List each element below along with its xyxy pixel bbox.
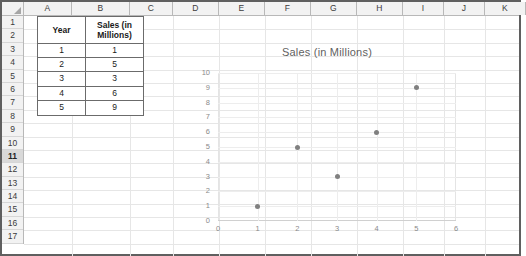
column-header-k[interactable]: K bbox=[485, 2, 526, 15]
table-row[interactable]: 33 bbox=[38, 72, 144, 86]
cell-sales[interactable]: 3 bbox=[86, 72, 144, 86]
row-header-3[interactable]: 3 bbox=[2, 43, 23, 56]
x-grid-line bbox=[258, 73, 259, 221]
column-header-f[interactable]: F bbox=[265, 2, 311, 15]
data-point[interactable] bbox=[374, 130, 379, 135]
data-point[interactable] bbox=[295, 145, 300, 150]
y-axis-tick-label: 4 bbox=[188, 158, 210, 166]
data-table[interactable]: Year Sales (in Millions) 1125334659 bbox=[37, 16, 144, 116]
x-axis-tick-label: 0 bbox=[206, 225, 230, 233]
row-header-14[interactable]: 14 bbox=[2, 190, 23, 203]
y-axis-tick-label: 2 bbox=[188, 187, 210, 195]
row-header-12[interactable]: 12 bbox=[2, 163, 23, 176]
x-axis-tick-label: 4 bbox=[365, 225, 389, 233]
row-header-column: 1234567891011121314151617 bbox=[2, 16, 24, 244]
y-axis-tick-label: 0 bbox=[188, 217, 210, 225]
x-grid-line bbox=[377, 73, 378, 221]
cell-year[interactable]: 1 bbox=[38, 43, 86, 57]
row-header-5[interactable]: 5 bbox=[2, 70, 23, 83]
column-header-h[interactable]: H bbox=[357, 2, 403, 15]
x-axis-tick-label: 3 bbox=[325, 225, 349, 233]
row-header-11[interactable]: 11 bbox=[2, 150, 23, 163]
x-axis-tick-label: 1 bbox=[246, 225, 270, 233]
y-axis-tick-label: 10 bbox=[188, 69, 210, 77]
cell-sales[interactable]: 6 bbox=[86, 86, 144, 100]
column-header-b[interactable]: B bbox=[72, 2, 130, 15]
plot-area: 0123456789100123456 bbox=[218, 73, 456, 221]
cell-year[interactable]: 5 bbox=[38, 101, 86, 115]
row-header-17[interactable]: 17 bbox=[2, 230, 23, 243]
table-row[interactable]: 46 bbox=[38, 86, 144, 100]
y-axis-tick-label: 7 bbox=[188, 113, 210, 121]
cell-year[interactable]: 3 bbox=[38, 72, 86, 86]
row-header-1[interactable]: 1 bbox=[2, 16, 23, 29]
y-axis-tick-label: 1 bbox=[188, 202, 210, 210]
y-axis-tick-label: 5 bbox=[188, 143, 210, 151]
x-axis-tick-label: 6 bbox=[444, 225, 468, 233]
header-sales-line1: Sales (in bbox=[86, 20, 143, 30]
column-header-row: ABCDEFGHIJK bbox=[2, 2, 519, 16]
y-axis-tick-label: 3 bbox=[188, 173, 210, 181]
x-grid-line bbox=[416, 73, 417, 221]
scatter-chart[interactable]: Sales (in Millions) 0123456789100123456 bbox=[162, 28, 492, 250]
row-header-9[interactable]: 9 bbox=[2, 123, 23, 136]
row-header-10[interactable]: 10 bbox=[2, 137, 23, 150]
table-row[interactable]: 11 bbox=[38, 43, 144, 57]
table-header-row: Year Sales (in Millions) bbox=[38, 17, 144, 44]
header-sales: Sales (in Millions) bbox=[86, 17, 144, 44]
column-header-e[interactable]: E bbox=[219, 2, 265, 15]
y-axis-tick-label: 8 bbox=[188, 99, 210, 107]
cell-sales[interactable]: 1 bbox=[86, 43, 144, 57]
header-year: Year bbox=[38, 17, 86, 44]
data-point[interactable] bbox=[255, 204, 260, 209]
column-header-j[interactable]: J bbox=[444, 2, 485, 15]
select-all-corner[interactable] bbox=[2, 2, 24, 15]
header-sales-line2: Millions) bbox=[86, 30, 143, 40]
column-header-i[interactable]: I bbox=[403, 2, 444, 15]
cell-year[interactable]: 4 bbox=[38, 86, 86, 100]
row-header-16[interactable]: 16 bbox=[2, 217, 23, 230]
row-header-2[interactable]: 2 bbox=[2, 29, 23, 42]
data-point[interactable] bbox=[335, 174, 340, 179]
cell-sales[interactable]: 5 bbox=[86, 57, 144, 71]
row-header-15[interactable]: 15 bbox=[2, 203, 23, 216]
column-header-c[interactable]: C bbox=[130, 2, 173, 15]
column-header-d[interactable]: D bbox=[173, 2, 219, 15]
cell-sales[interactable]: 9 bbox=[86, 101, 144, 115]
row-header-7[interactable]: 7 bbox=[2, 96, 23, 109]
y-axis-tick-label: 9 bbox=[188, 84, 210, 92]
column-header-g[interactable]: G bbox=[311, 2, 357, 15]
y-axis-tick-label: 6 bbox=[188, 128, 210, 136]
table-row[interactable]: 25 bbox=[38, 57, 144, 71]
column-header-a[interactable]: A bbox=[24, 2, 72, 15]
row-header-6[interactable]: 6 bbox=[2, 83, 23, 96]
x-axis-tick-label: 2 bbox=[285, 225, 309, 233]
row-header-8[interactable]: 8 bbox=[2, 110, 23, 123]
x-axis-tick-label: 5 bbox=[404, 225, 428, 233]
cell-year[interactable]: 2 bbox=[38, 57, 86, 71]
x-grid-line bbox=[337, 73, 338, 221]
row-header-13[interactable]: 13 bbox=[2, 177, 23, 190]
table-row[interactable]: 59 bbox=[38, 101, 144, 115]
row-header-4[interactable]: 4 bbox=[2, 56, 23, 69]
chart-title: Sales (in Millions) bbox=[162, 46, 492, 58]
